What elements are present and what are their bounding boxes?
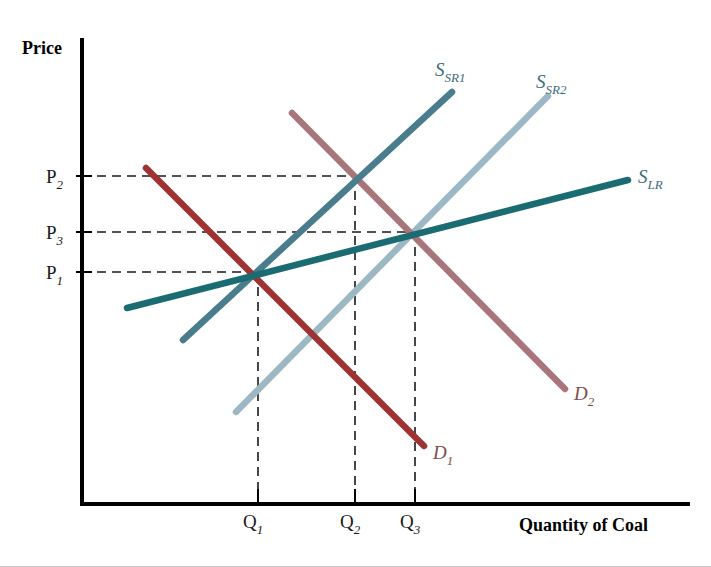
curve-d2	[292, 113, 565, 389]
x-tick-label-q3-sub: 3	[413, 522, 421, 537]
curve-label-d1-sub: 1	[447, 453, 454, 468]
x-tick-label-q1-base: Q	[243, 511, 257, 532]
y-tick-label-p2-sub: 2	[57, 177, 64, 192]
x-tick-label-q2-sub: 2	[354, 522, 361, 537]
curve-label-s-sr1-base: S	[435, 59, 445, 80]
axes	[80, 38, 690, 504]
y-tick-label-p1-sub: 1	[57, 273, 64, 288]
curve-label-s-sr2-base: S	[536, 71, 546, 92]
page-title-price: Price	[22, 38, 62, 58]
curve-label-d1-base: D	[432, 442, 447, 463]
curve-label-s-lr-base: S	[638, 166, 648, 187]
curve-label-d1: D1	[432, 442, 453, 468]
curve-label-s-sr2-sub: SR2	[546, 82, 567, 97]
x-tick-label-q2: Q2	[340, 511, 361, 537]
y-tick-label-p2: P2	[46, 166, 64, 192]
curve-s-sr1	[183, 92, 452, 340]
curve-label-s-lr-sub: LR	[647, 177, 663, 192]
y-tick-label-p2-base: P	[46, 166, 57, 187]
y-tick-label-p3-base: P	[46, 222, 57, 243]
curve-label-s-sr2: SSR2	[536, 71, 567, 97]
curve-group	[127, 92, 628, 446]
axis-title-quantity: Quantity of Coal	[519, 515, 648, 535]
x-tick-label-q1: Q1	[243, 511, 263, 537]
curve-label-s-sr1-sub: SR1	[445, 70, 466, 85]
chart-canvas: Price Quantity of Coal P2 P3 P1 Q1 Q2 Q3…	[0, 0, 711, 567]
x-tick-label-q3: Q3	[400, 511, 421, 537]
y-tick-label-p3: P3	[46, 222, 64, 248]
y-tick-label-p1: P1	[46, 262, 63, 288]
curve-label-s-lr: SLR	[638, 166, 663, 192]
tick-marks	[76, 176, 415, 506]
coal-supply-demand-figure: Price Quantity of Coal P2 P3 P1 Q1 Q2 Q3…	[0, 0, 711, 567]
curve-label-s-sr1: SSR1	[435, 59, 465, 85]
guide-lines	[82, 176, 415, 504]
curve-label-d2: D2	[573, 383, 595, 409]
curve-label-d2-base: D	[573, 383, 588, 404]
x-tick-label-q1-sub: 1	[257, 522, 264, 537]
x-tick-label-q2-base: Q	[340, 511, 354, 532]
y-tick-label-p3-sub: 3	[56, 233, 64, 248]
curve-d1	[146, 168, 424, 446]
y-tick-label-p1-base: P	[46, 262, 57, 283]
x-tick-label-q3-base: Q	[400, 511, 414, 532]
curve-label-d2-sub: 2	[588, 394, 595, 409]
